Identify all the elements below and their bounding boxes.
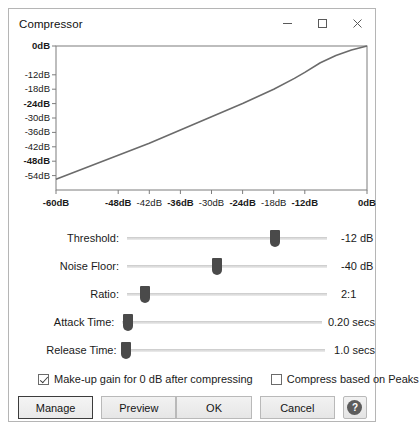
slider-thumb[interactable] — [123, 314, 133, 331]
y-tick-label: -54dB — [25, 170, 50, 181]
x-tick-label: -42dB — [137, 197, 162, 208]
slider-row: Release Time:1.0 secs — [9, 336, 375, 364]
checkbox-unchecked-icon[interactable] — [271, 374, 282, 385]
slider-value: 2:1 — [341, 288, 356, 300]
slider-row: Noise Floor:-40 dB — [9, 252, 375, 280]
checkbox-compress-peaks-label: Compress based on Peaks — [287, 373, 419, 385]
slider-value: 0.20 secs — [328, 316, 375, 328]
close-button[interactable] — [340, 9, 375, 38]
checkbox-compress-peaks[interactable]: Compress based on Peaks — [271, 373, 419, 385]
checkbox-checked-icon[interactable] — [38, 374, 49, 385]
checkbox-row: Make-up gain for 0 dB after compressing … — [9, 373, 375, 385]
y-tick-label: -36dB — [25, 126, 50, 137]
x-tick-label: -36dB — [167, 197, 193, 208]
minimize-button[interactable] — [270, 9, 305, 38]
y-tick-label: -18dB — [25, 83, 50, 94]
dialog-footer: Manage Preview OK Cancel ? — [9, 394, 375, 421]
slider-track[interactable] — [127, 265, 327, 268]
chart-canvas — [9, 38, 375, 216]
slider-row: Ratio:2:1 — [9, 280, 375, 308]
x-tick-label: -48dB — [105, 197, 131, 208]
y-tick-label: 0dB — [32, 40, 50, 51]
y-tick-label: -30dB — [25, 112, 50, 123]
slider-control[interactable] — [127, 254, 327, 278]
question-mark-icon: ? — [347, 400, 362, 415]
y-tick-label: -24dB — [24, 98, 50, 109]
slider-track[interactable] — [122, 321, 322, 324]
x-tick-label: 0dB — [358, 197, 376, 208]
slider-control[interactable] — [125, 338, 321, 362]
caption-button-group — [270, 9, 375, 38]
manage-button[interactable]: Manage — [18, 396, 93, 419]
help-button[interactable]: ? — [343, 396, 367, 419]
cancel-button[interactable]: Cancel — [260, 396, 335, 419]
maximize-button[interactable] — [305, 9, 340, 38]
slider-value: -40 dB — [341, 260, 373, 272]
slider-list: Threshold:-12 dBNoise Floor:-40 dBRatio:… — [9, 216, 375, 364]
slider-label: Noise Floor: — [9, 260, 119, 272]
checkbox-makeup-gain[interactable]: Make-up gain for 0 dB after compressing — [38, 373, 253, 385]
y-tick-label: -42dB — [25, 141, 50, 152]
slider-track[interactable] — [125, 349, 325, 352]
compressor-dialog: Compressor 0dB-12dB-18dB-24dB-30dB-36dB-… — [8, 8, 376, 422]
slider-row: Attack Time:0.20 secs — [9, 308, 375, 336]
slider-thumb[interactable] — [270, 230, 280, 247]
slider-thumb[interactable] — [121, 342, 131, 359]
slider-track[interactable] — [127, 293, 327, 296]
preview-button[interactable]: Preview — [101, 396, 176, 419]
x-tick-label: -30dB — [199, 197, 224, 208]
slider-value: 1.0 secs — [334, 344, 375, 356]
x-tick-label: -60dB — [43, 197, 69, 208]
slider-label: Attack Time: — [9, 316, 114, 328]
slider-label: Threshold: — [9, 232, 119, 244]
x-tick-label: -12dB — [292, 197, 318, 208]
slider-label: Ratio: — [9, 288, 119, 300]
slider-label: Release Time: — [9, 344, 117, 356]
slider-control[interactable] — [127, 282, 327, 306]
window-title: Compressor — [19, 18, 83, 30]
compression-curve-chart: 0dB-12dB-18dB-24dB-30dB-36dB-42dB-48dB-5… — [9, 38, 375, 216]
title-bar: Compressor — [9, 9, 375, 38]
slider-control[interactable] — [122, 310, 314, 334]
slider-thumb[interactable] — [140, 286, 150, 303]
slider-thumb[interactable] — [212, 258, 222, 275]
checkbox-makeup-gain-label: Make-up gain for 0 dB after compressing — [54, 373, 253, 385]
slider-value: -12 dB — [341, 232, 373, 244]
slider-track[interactable] — [127, 237, 327, 240]
slider-control[interactable] — [127, 226, 327, 250]
y-tick-label: -48dB — [24, 155, 50, 166]
x-tick-label: -18dB — [261, 197, 286, 208]
ok-button[interactable]: OK — [176, 396, 251, 419]
slider-row: Threshold:-12 dB — [9, 224, 375, 252]
y-tick-label: -12dB — [25, 69, 50, 80]
x-tick-label: -24dB — [229, 197, 255, 208]
